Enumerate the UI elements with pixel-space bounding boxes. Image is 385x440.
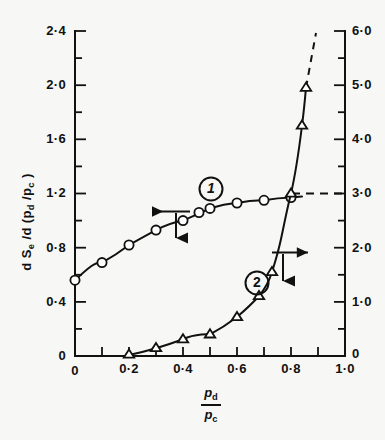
right-axis-tick-label: 3·0	[352, 186, 372, 199]
data-point-triangle	[267, 267, 277, 275]
curve-2-path	[129, 88, 306, 355]
data-point-circle	[178, 216, 187, 225]
data-point-triangle	[205, 329, 215, 337]
y-axis-title-tail-sub: c	[26, 182, 36, 188]
x-axis-denominator-sub: c	[212, 413, 217, 423]
right-axis-tick-label: 5·0	[352, 78, 372, 91]
curve-2-dashed-extension	[306, 33, 316, 88]
x-axis-numerator-symbol: p	[204, 385, 212, 400]
bottom-axis-tick-label: 0	[58, 364, 92, 377]
fraction-bar	[201, 404, 221, 406]
bottom-axis-tick-label: 0·6	[220, 362, 254, 375]
left-axis-tick-label: 0	[22, 349, 66, 362]
data-point-triangle	[124, 349, 134, 357]
right-axis-tick-label: 2·0	[352, 241, 372, 254]
curve-2-tag-label: 2	[247, 275, 267, 289]
figure-panel: 2·4 2·0 1·6 1·2 0·8 0·4 0 6·0 5·0 4·0 3·…	[0, 0, 385, 440]
y-axis-title-mid-sub: d	[26, 204, 36, 210]
y-axis-title: d Se /d (pd /pc )	[20, 142, 36, 302]
right-axis-tick-label: 1·0	[352, 295, 372, 308]
curve-1-markers	[70, 193, 295, 285]
data-point-circle	[205, 204, 214, 213]
right-axis-tick-label: 4·0	[352, 132, 372, 145]
y-axis-title-tail: /p	[19, 188, 34, 204]
curve-1-tag-label: 1	[201, 181, 221, 195]
bottom-axis-tick-label: 0·2	[112, 362, 146, 375]
y-axis-title-lead: d S	[19, 249, 34, 270]
left-axis-tick-label: 2·0	[22, 78, 66, 91]
x-axis-numerator-sub: d	[212, 392, 218, 402]
data-point-circle	[124, 240, 133, 249]
x-axis-fraction: pd pc	[201, 386, 221, 424]
data-point-circle	[259, 196, 268, 205]
data-point-circle	[194, 208, 203, 217]
bottom-axis-tick-label: 0·4	[166, 362, 200, 375]
data-point-triangle	[151, 343, 161, 351]
y-axis-title-mid: /d (p	[19, 210, 34, 243]
curve-1-path	[75, 197, 302, 281]
right-axis-ticks	[334, 31, 345, 329]
y-axis-title-close: )	[19, 173, 34, 182]
data-point-circle	[97, 258, 106, 267]
data-point-circle	[151, 226, 160, 235]
data-point-triangle	[286, 189, 296, 197]
x-axis-title: pd pc	[181, 386, 241, 424]
data-point-circle	[70, 276, 79, 285]
data-point-triangle	[301, 83, 311, 91]
left-axis-tick-label: 2·4	[22, 24, 66, 37]
right-axis-tick-label: 6·0	[352, 24, 372, 37]
right-axis-tick-label: 0	[352, 347, 360, 360]
y-axis-title-lead-sub: e	[26, 244, 36, 250]
bottom-axis-tick-label: 1·0	[328, 362, 362, 375]
x-axis-denominator: pc	[201, 408, 221, 424]
x-axis-numerator: pd	[201, 386, 221, 402]
data-point-triangle	[178, 334, 188, 342]
data-point-circle	[232, 198, 241, 207]
curve-2-markers	[124, 83, 311, 358]
bottom-axis-tick-label: 0·8	[274, 362, 308, 375]
data-point-triangle	[297, 121, 307, 129]
